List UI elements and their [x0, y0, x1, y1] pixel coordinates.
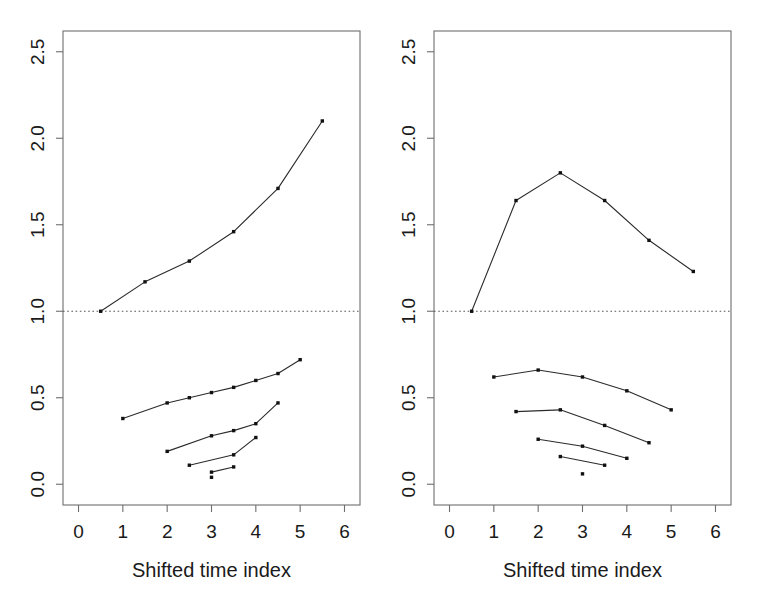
data-point	[603, 199, 606, 202]
data-point	[603, 464, 606, 467]
x-axis-tick-label: 2	[533, 521, 544, 542]
data-point	[298, 358, 301, 361]
data-point	[121, 417, 124, 420]
y-axis-tick-label: 2.5	[27, 39, 48, 65]
data-point	[254, 379, 257, 382]
chart-svg-right: 01234560.00.51.01.52.02.5Shifted time in…	[371, 0, 761, 595]
y-axis-tick-label: 0.5	[27, 385, 48, 411]
series-line-lower-curve-3	[538, 439, 627, 458]
x-axis-tick-label: 3	[577, 521, 588, 542]
plot-group-right: 01234560.00.51.01.52.02.5Shifted time in…	[398, 31, 731, 581]
data-point	[603, 424, 606, 427]
data-point	[254, 436, 257, 439]
x-axis-tick-label: 1	[489, 521, 500, 542]
chart-panel-right: 01234560.00.51.01.52.02.5Shifted time in…	[371, 0, 761, 595]
x-axis-tick-label: 4	[251, 521, 262, 542]
series-line-upper-curve	[101, 121, 323, 311]
data-point	[581, 472, 584, 475]
x-axis-tick-label: 5	[295, 521, 306, 542]
data-point	[99, 310, 102, 313]
data-point	[625, 457, 628, 460]
y-axis-tick-label: 0.0	[398, 471, 419, 497]
x-axis-tick-label: 5	[666, 521, 677, 542]
data-point	[232, 465, 235, 468]
data-point	[559, 408, 562, 411]
data-point	[165, 401, 168, 404]
series-line-lower-curve-2	[516, 410, 649, 443]
plot-group-left: 01234560.00.51.01.52.02.5Shifted time in…	[27, 31, 360, 581]
data-point	[232, 429, 235, 432]
data-point	[276, 401, 279, 404]
x-axis-label: Shifted time index	[132, 559, 291, 581]
data-point	[210, 470, 213, 473]
data-point	[647, 441, 650, 444]
data-point	[165, 450, 168, 453]
chart-svg-left: 01234560.00.51.01.52.02.5Shifted time in…	[0, 0, 390, 595]
x-axis-tick-label: 0	[444, 521, 455, 542]
x-axis-label: Shifted time index	[503, 559, 662, 581]
data-point	[581, 444, 584, 447]
data-point	[188, 464, 191, 467]
x-axis-tick-label: 1	[118, 521, 129, 542]
y-axis-tick-label: 1.0	[398, 298, 419, 324]
x-axis-tick-label: 2	[162, 521, 173, 542]
data-point	[669, 408, 672, 411]
plot-frame	[63, 31, 360, 505]
y-axis-tick-label: 1.5	[27, 212, 48, 238]
data-point	[321, 119, 324, 122]
series-line-lower-curve-4	[212, 467, 234, 472]
data-point	[514, 199, 517, 202]
data-point	[625, 389, 628, 392]
data-point	[210, 434, 213, 437]
data-point	[514, 410, 517, 413]
y-axis-tick-label: 1.5	[398, 212, 419, 238]
data-point	[581, 375, 584, 378]
y-axis-tick-label: 1.0	[27, 298, 48, 324]
data-point	[232, 453, 235, 456]
data-point	[276, 372, 279, 375]
data-point	[254, 422, 257, 425]
series-line-lower-curve-2	[167, 403, 278, 451]
x-axis-tick-label: 4	[622, 521, 633, 542]
y-axis-tick-label: 0.0	[27, 471, 48, 497]
x-axis-tick-label: 6	[339, 521, 350, 542]
series-line-lower-curve-3	[189, 438, 255, 466]
data-point	[492, 375, 495, 378]
data-point	[470, 310, 473, 313]
y-axis-tick-label: 0.5	[398, 385, 419, 411]
figure-canvas: 01234560.00.51.01.52.02.5Shifted time in…	[0, 0, 761, 595]
data-point	[647, 239, 650, 242]
data-point	[210, 391, 213, 394]
data-point	[188, 259, 191, 262]
data-point	[692, 270, 695, 273]
y-axis-tick-label: 2.5	[398, 39, 419, 65]
series-line-upper-curve	[472, 173, 694, 311]
data-point	[232, 386, 235, 389]
series-line-lower-curve-4	[560, 457, 604, 466]
chart-panel-left: 01234560.00.51.01.52.02.5Shifted time in…	[0, 0, 390, 595]
x-axis-tick-label: 6	[710, 521, 721, 542]
y-axis-tick-label: 2.0	[398, 125, 419, 151]
data-point	[232, 230, 235, 233]
data-point	[143, 280, 146, 283]
series-line-lower-curve-1	[123, 360, 300, 419]
y-axis-tick-label: 2.0	[27, 125, 48, 151]
plot-frame	[434, 31, 731, 505]
data-point	[188, 396, 191, 399]
x-axis-tick-label: 3	[206, 521, 217, 542]
data-point	[536, 368, 539, 371]
x-axis-tick-label: 0	[73, 521, 84, 542]
data-point	[210, 476, 213, 479]
data-point	[276, 187, 279, 190]
data-point	[559, 455, 562, 458]
data-point	[559, 171, 562, 174]
data-point	[536, 438, 539, 441]
